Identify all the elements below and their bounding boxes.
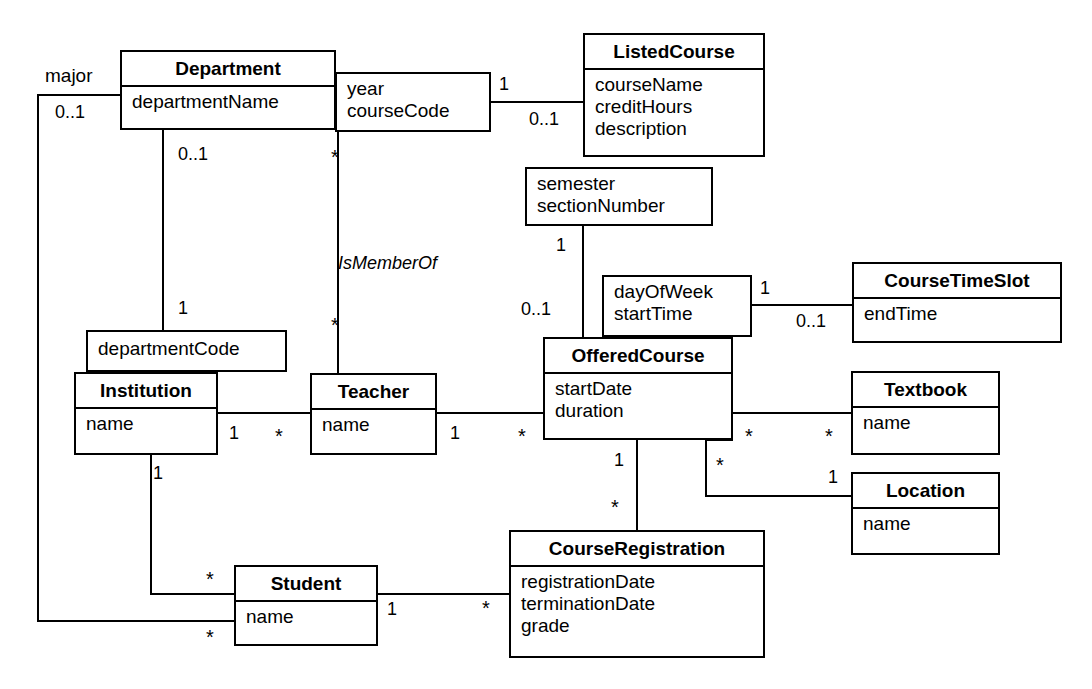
multiplicity-listedcourse-offeredcourse-one: 1 <box>556 236 566 254</box>
class-box-courseregistration[interactable]: CourseRegistration registrationDate term… <box>509 530 765 658</box>
assoc-label-ismemberof: IsMemberOf <box>338 254 437 272</box>
class-name-offeredcourse: OfferedCourse <box>545 339 731 374</box>
class-attrs-location: name <box>853 509 998 540</box>
class-box-offeredcourse[interactable]: OfferedCourse startDate duration <box>543 337 733 440</box>
class-box-student[interactable]: Student name <box>234 565 378 646</box>
class-box-location[interactable]: Location name <box>851 472 1000 555</box>
multiplicity-student-registration-one: 1 <box>387 600 397 618</box>
class-name-department: Department <box>122 52 334 87</box>
uml-diagram-canvas: year courseCode semester sectionNumber d… <box>0 0 1092 689</box>
class-box-institution[interactable]: Institution name <box>74 372 218 455</box>
multiplicity-institution-department-one: 1 <box>178 299 188 317</box>
multiplicity-timeslot-right-zeroone: 0..1 <box>796 312 826 330</box>
line-institution-student <box>151 455 234 594</box>
multiplicity-department-listedcourse-zeroone: 0..1 <box>529 110 559 128</box>
multiplicity-major-student-star: * <box>206 630 214 644</box>
class-attrs-student: name <box>236 602 376 633</box>
multiplicity-location-offeredcourse-one: 1 <box>828 468 838 486</box>
class-name-textbook: Textbook <box>853 373 998 408</box>
multiplicity-registration-offeredcourse-star: * <box>611 500 619 514</box>
class-box-department[interactable]: Department departmentName <box>120 50 336 130</box>
class-box-teacher[interactable]: Teacher name <box>310 373 437 455</box>
assoc-attrs-year-coursecode: year courseCode <box>335 72 491 132</box>
multiplicity-institution-teacher-one: 1 <box>229 424 239 442</box>
role-label-major: major <box>45 66 93 85</box>
class-attrs-institution: name <box>76 409 216 440</box>
class-name-courseregistration: CourseRegistration <box>511 532 763 567</box>
class-name-listedcourse: ListedCourse <box>585 35 763 70</box>
assoc-attrs-dayofweek-starttime: dayOfWeek startTime <box>602 275 752 337</box>
multiplicity-listedcourse-offeredcourse-zeroone: 0..1 <box>521 300 551 318</box>
multiplicity-department-teacher-star: * <box>331 150 339 164</box>
multiplicity-teacher-offeredcourse-star: * <box>518 429 526 443</box>
class-attrs-courseregistration: registrationDate terminationDate grade <box>511 567 763 642</box>
class-attrs-teacher: name <box>312 410 435 441</box>
class-box-coursetimeslot[interactable]: CourseTimeSlot endTime <box>852 262 1062 343</box>
class-name-location: Location <box>853 474 998 509</box>
multiplicity-textbook-offeredcourse-star: * <box>825 429 833 443</box>
assoc-attrs-departmentcode: departmentCode <box>86 330 287 372</box>
multiplicity-institution-student-star: * <box>206 572 214 586</box>
multiplicity-major-department: 0..1 <box>55 103 85 121</box>
class-attrs-department: departmentName <box>122 87 334 118</box>
class-name-institution: Institution <box>76 374 216 409</box>
class-box-listedcourse[interactable]: ListedCourse courseName creditHours desc… <box>583 33 765 157</box>
multiplicity-offeredcourse-textbook-star: * <box>745 429 753 443</box>
multiplicity-department-institution-zeroone: 0..1 <box>178 145 208 163</box>
multiplicity-offeredcourse-registration-one: 1 <box>614 451 624 469</box>
assoc-attrs-semester-sectionnumber: semester sectionNumber <box>525 167 713 226</box>
class-attrs-textbook: name <box>853 408 998 439</box>
class-attrs-listedcourse: courseName creditHours description <box>585 70 763 145</box>
multiplicity-teacher-ismemberof-star: * <box>331 318 339 332</box>
multiplicity-registration-student-star: * <box>482 601 490 615</box>
class-name-student: Student <box>236 567 376 602</box>
class-box-textbook[interactable]: Textbook name <box>851 371 1000 455</box>
multiplicity-institution-student-one: 1 <box>153 464 163 482</box>
class-name-teacher: Teacher <box>312 375 435 410</box>
class-name-coursetimeslot: CourseTimeSlot <box>854 264 1060 299</box>
multiplicity-institution-teacher-star: * <box>275 429 283 443</box>
multiplicity-offeredcourse-location-star: * <box>716 458 724 472</box>
class-attrs-coursetimeslot: endTime <box>854 299 1060 330</box>
class-attrs-offeredcourse: startDate duration <box>545 374 731 427</box>
multiplicity-department-listedcourse-one: 1 <box>499 75 509 93</box>
multiplicity-teacher-offeredcourse-one: 1 <box>450 424 460 442</box>
multiplicity-timeslot-left-one: 1 <box>760 279 770 297</box>
